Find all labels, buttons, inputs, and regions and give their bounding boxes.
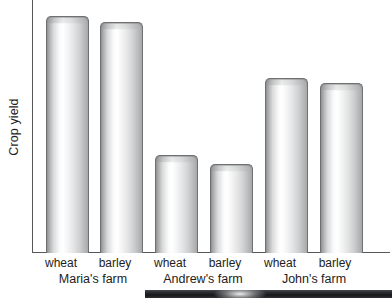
tick-label-john-barley: barley bbox=[300, 256, 370, 270]
group-label-maria: Maria's farm bbox=[36, 272, 150, 286]
bar-andrew-barley bbox=[210, 164, 253, 253]
bar-maria-barley bbox=[100, 22, 143, 253]
bar-cap bbox=[212, 166, 251, 171]
bar-john-wheat bbox=[265, 78, 308, 253]
y-axis-title-text: Crop yield bbox=[7, 98, 21, 155]
bar-john-barley bbox=[320, 83, 363, 253]
bar-maria-wheat bbox=[46, 16, 89, 253]
bar-cap bbox=[157, 157, 196, 162]
plot-area bbox=[32, 0, 390, 253]
y-axis-title: Crop yield bbox=[0, 0, 28, 253]
page-edge-strip bbox=[145, 290, 392, 298]
bar-andrew-wheat bbox=[155, 155, 198, 253]
group-label-andrew: Andrew's farm bbox=[145, 272, 261, 286]
chart-page: Crop yield wheat barley wheat barley whe… bbox=[0, 0, 392, 302]
bar-cap bbox=[48, 18, 87, 23]
bar-cap bbox=[102, 24, 141, 29]
bar-cap bbox=[322, 85, 361, 90]
bar-cap bbox=[267, 80, 306, 85]
group-label-john: John's farm bbox=[258, 272, 370, 286]
